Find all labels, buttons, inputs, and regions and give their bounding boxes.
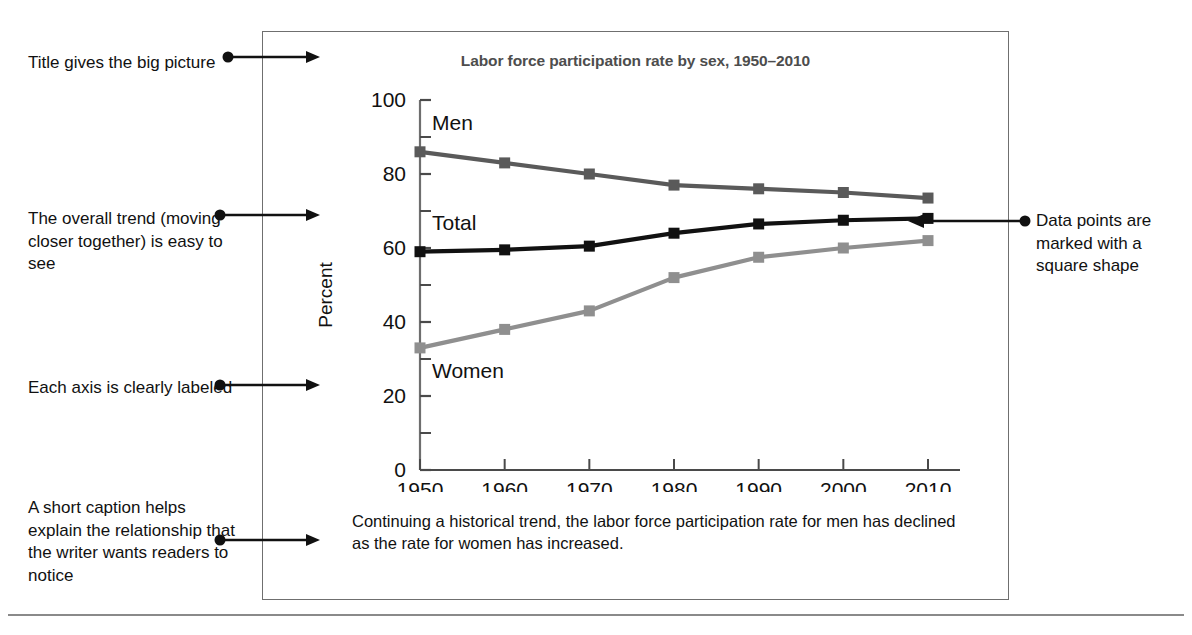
pointer-arrow-caption xyxy=(214,529,322,551)
x-tick-label: 1970 xyxy=(566,478,613,492)
x-tick-label: 1960 xyxy=(481,478,528,492)
data-point-marker xyxy=(753,252,764,263)
y-tick-label: 40 xyxy=(383,310,406,333)
series-line-women xyxy=(420,241,928,348)
data-point-marker xyxy=(838,187,849,198)
y-tick-label: 100 xyxy=(371,92,406,111)
figure-caption: Continuing a historical trend, the labor… xyxy=(352,511,977,555)
annotation-title-note: Title gives the big picture xyxy=(28,52,233,75)
annotation-datapoints-note: Data points are marked with a square sha… xyxy=(1036,210,1186,278)
data-point-marker xyxy=(415,342,426,353)
x-tick-label: 1980 xyxy=(651,478,698,492)
pointer-arrow-trend xyxy=(214,204,322,226)
pointer-arrow-datapoints xyxy=(906,210,1031,232)
data-point-marker xyxy=(499,157,510,168)
x-tick-label: 1950 xyxy=(397,478,444,492)
data-point-marker xyxy=(923,235,934,246)
annotation-trend-note: The overall trend (moving closer togethe… xyxy=(28,208,243,276)
y-axis-title: Percent xyxy=(315,262,336,328)
data-point-marker xyxy=(753,218,764,229)
series-label-women: Women xyxy=(432,359,504,382)
data-point-marker xyxy=(415,246,426,257)
data-point-marker xyxy=(669,272,680,283)
pointer-arrow-axis xyxy=(214,374,322,396)
x-tick-label: 2000 xyxy=(820,478,867,492)
bottom-divider xyxy=(8,614,1184,616)
series-label-men: Men xyxy=(432,111,473,134)
x-tick-label: 1990 xyxy=(735,478,782,492)
data-point-marker xyxy=(584,305,595,316)
x-tick-label: 2010 xyxy=(905,478,952,492)
data-point-marker xyxy=(415,146,426,157)
line-chart: 0204060801001950196019701980199020002010… xyxy=(300,92,980,492)
pointer-arrow-title xyxy=(222,46,322,68)
data-point-marker xyxy=(499,324,510,335)
data-point-marker xyxy=(753,183,764,194)
series-label-total: Total xyxy=(432,211,476,234)
data-point-marker xyxy=(584,169,595,180)
data-point-marker xyxy=(838,215,849,226)
y-tick-label: 20 xyxy=(383,384,406,407)
chart-title: Labor force participation rate by sex, 1… xyxy=(262,52,1009,70)
data-point-marker xyxy=(499,244,510,255)
annotation-caption-note: A short caption helps explain the relati… xyxy=(28,497,243,587)
series-line-men xyxy=(420,152,928,198)
data-point-marker xyxy=(669,180,680,191)
data-point-marker xyxy=(838,243,849,254)
y-tick-label: 60 xyxy=(383,236,406,259)
data-point-marker xyxy=(923,193,934,204)
data-point-marker xyxy=(584,241,595,252)
annotation-axis-note: Each axis is clearly labeled xyxy=(28,377,233,400)
data-point-marker xyxy=(669,228,680,239)
y-tick-label: 80 xyxy=(383,162,406,185)
